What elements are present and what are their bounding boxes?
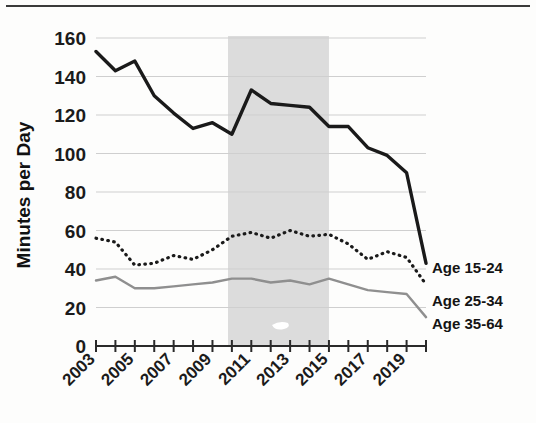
x-tick-label: 2003 (59, 349, 99, 389)
y-axis-tick-labels: 020406080100120140160 (54, 28, 86, 357)
chart-page: 020406080100120140160 200320052007200920… (0, 0, 536, 423)
x-tick-label: 2015 (292, 349, 332, 389)
x-tick-label: 2005 (97, 349, 137, 389)
x-axis-tick-labels: 200320052007200920112013201520172019 (59, 349, 410, 389)
y-tick-label: 60 (65, 221, 86, 242)
y-tick-label: 100 (54, 144, 86, 165)
x-tick-label: 2009 (175, 349, 215, 389)
series-label-age-15-24: Age 15-24 (432, 259, 504, 276)
series-end-labels: Age 15-24Age 25-34Age 35-64 (432, 259, 504, 332)
x-tick-label: 2011 (215, 349, 255, 389)
line-chart: 020406080100120140160 200320052007200920… (0, 0, 536, 423)
x-tick-label: 2013 (253, 349, 293, 389)
y-tick-label: 120 (54, 105, 86, 126)
x-tick-label: 2007 (136, 349, 176, 389)
x-tick-label: 2019 (369, 349, 409, 389)
x-tick-label: 2017 (330, 349, 370, 389)
y-tick-label: 160 (54, 28, 86, 49)
y-tick-label: 80 (65, 182, 86, 203)
series-label-age-25-34: Age 25-34 (432, 292, 504, 309)
y-tick-label: 40 (65, 259, 86, 280)
shaded-period-band (228, 36, 329, 346)
y-axis-title: Minutes per Day (13, 121, 34, 268)
y-tick-label: 20 (65, 298, 86, 319)
y-tick-label: 140 (54, 67, 86, 88)
series-label-age-35-64: Age 35-64 (432, 315, 504, 332)
